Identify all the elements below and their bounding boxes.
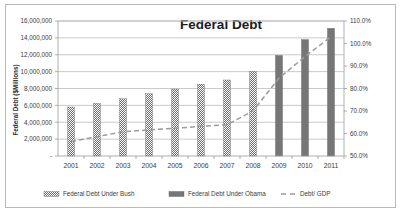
x-axis-tick-label: 2007 xyxy=(219,162,234,169)
bar-2003 xyxy=(120,99,127,156)
bar-2009 xyxy=(276,56,283,156)
bar-2010 xyxy=(302,40,309,156)
x-axis-tick-label: 2010 xyxy=(297,162,312,169)
legend-label: Federal Debt Under Obama xyxy=(188,190,266,197)
y-axis-left-ticks: 16,000,00014,000,00012,000,00010,000,000… xyxy=(20,17,58,159)
x-axis-tick-label: 2001 xyxy=(63,162,78,169)
y2-axis-tick-label: 60.0% xyxy=(350,130,368,137)
y-axis-title: Federal Debt ($Millions) xyxy=(12,64,20,135)
x-axis-tick-label: 2008 xyxy=(245,162,260,169)
x-axis-tick-label: 2004 xyxy=(141,162,156,169)
y2-axis-tick-label: 80.0% xyxy=(350,85,368,92)
x-axis-tick-label: 2009 xyxy=(271,162,286,169)
x-axis-ticks: 2001200220032004200520062007200820092010… xyxy=(63,156,344,169)
legend-swatch-bush xyxy=(44,192,59,197)
y2-axis-tick-label: 100.0% xyxy=(350,40,372,47)
chart-legend: Federal Debt Under BushFederal Debt Unde… xyxy=(44,190,330,197)
x-axis-tick-label: 2005 xyxy=(167,162,182,169)
y-axis-tick-label: 16,000,000 xyxy=(20,17,52,24)
y-axis-tick-label: 4,000,000 xyxy=(24,119,53,126)
y-axis-tick-label: 8,000,000 xyxy=(24,85,53,92)
bar-2004 xyxy=(146,94,153,156)
bar-2002 xyxy=(94,103,101,156)
bar-2001 xyxy=(68,107,75,156)
page-title: Federal Debt xyxy=(180,17,262,32)
chart-container: Federal Debt Federal Debt ($Millions) 16… xyxy=(5,4,396,208)
y-axis-tick-label: 14,000,000 xyxy=(20,34,52,41)
bar-2008 xyxy=(250,71,257,156)
y2-axis-tick-label: 70.0% xyxy=(350,107,368,114)
y-axis-tick-label: 10,000,000 xyxy=(20,68,52,75)
y2-axis-tick-label: 110.0% xyxy=(350,17,371,24)
y-axis-tick-label: 12,000,000 xyxy=(20,51,52,58)
y2-axis-tick-label: 90.0% xyxy=(350,62,368,69)
y2-axis-tick-label: 50.0% xyxy=(350,152,368,159)
legend-label: Federal Debt Under Bush xyxy=(63,190,135,197)
bar-2006 xyxy=(198,84,205,156)
bar-series-group xyxy=(68,28,335,156)
y-axis-tick-label: - xyxy=(50,152,52,159)
x-axis-tick-label: 2002 xyxy=(89,162,104,169)
y-axis-tick-label: 6,000,000 xyxy=(24,102,53,109)
chart-screenshot: Federal Debt Federal Debt ($Millions) 16… xyxy=(0,0,403,214)
federal-debt-chart: Federal Debt Federal Debt ($Millions) 16… xyxy=(6,5,395,207)
bar-2005 xyxy=(172,89,179,156)
x-axis-tick-label: 2011 xyxy=(324,162,339,169)
legend-swatch-obama xyxy=(169,192,184,197)
chart-title-group: Federal Debt xyxy=(180,17,262,32)
x-axis-tick-label: 2006 xyxy=(193,162,208,169)
y-axis-right-ticks: 110.0%100.0%90.0%80.0%70.0%60.0%50.0% xyxy=(344,17,372,159)
y-axis-title-group: Federal Debt ($Millions) xyxy=(12,64,20,135)
bar-2007 xyxy=(224,80,231,156)
bar-2011 xyxy=(328,28,335,156)
x-axis-tick-label: 2003 xyxy=(115,162,130,169)
y-axis-tick-label: 2,000,000 xyxy=(24,135,53,142)
legend-label: Debt/ GDP xyxy=(300,190,330,197)
